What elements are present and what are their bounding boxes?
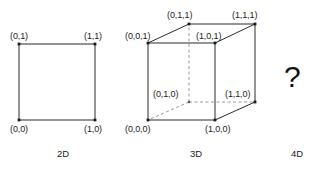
caption-3d: 3D bbox=[176, 148, 216, 159]
cube-vertex-dot-111 bbox=[254, 23, 257, 26]
cube-label-101: (1,0,1) bbox=[196, 31, 221, 41]
cube-vertex-dot-110 bbox=[254, 101, 257, 104]
cube-vertex-dot-001 bbox=[147, 42, 150, 45]
cube-edge-100-to-110 bbox=[215, 102, 255, 120]
caption-4d: 4D bbox=[277, 148, 317, 159]
cube-vertex-dot-010-hidden bbox=[188, 101, 190, 103]
figure-vector-graphics bbox=[0, 0, 318, 169]
cube-vertex-dot-011 bbox=[188, 23, 191, 26]
cube-label-001: (0,0,1) bbox=[125, 31, 150, 41]
cube-vertex-dot-100 bbox=[214, 119, 217, 122]
square-vertex-dot-0-0 bbox=[18, 119, 21, 122]
cube-edge-dashed-010-to-000 bbox=[148, 102, 189, 120]
cube-label-100: (1,0,0) bbox=[205, 124, 230, 134]
square-label-1-0: (1,0) bbox=[84, 124, 102, 134]
cube-vertex-dot-101 bbox=[214, 42, 217, 45]
cube-vertex-dot-000 bbox=[147, 119, 150, 122]
square-2d-shape bbox=[18, 43, 97, 122]
cube-label-111: (1,1,1) bbox=[232, 10, 257, 20]
cube-label-110: (1,1,0) bbox=[225, 89, 250, 99]
cube-edge-001-to-011 bbox=[148, 24, 189, 43]
hypercube-progression-figure: (0,1) (1,1) (0,0) (1,0) (0,0,1) (0,1,1) … bbox=[0, 0, 318, 169]
square-label-0-0: (0,0) bbox=[10, 124, 28, 134]
cube-front-face-outline bbox=[148, 43, 215, 120]
square-vertex-dot-1-1 bbox=[94, 43, 97, 46]
square-label-0-1: (0,1) bbox=[10, 31, 28, 41]
caption-2d: 2D bbox=[43, 148, 83, 159]
square-vertex-dot-0-1 bbox=[18, 43, 21, 46]
question-mark-glyph: ? bbox=[284, 62, 301, 92]
cube-label-011: (0,1,1) bbox=[167, 10, 192, 20]
cube-label-000: (0,0,0) bbox=[125, 124, 150, 134]
square-2d-outline bbox=[19, 44, 95, 120]
square-label-1-1: (1,1) bbox=[84, 31, 102, 41]
cube-label-010: (0,1,0) bbox=[153, 89, 178, 99]
square-vertex-dot-1-0 bbox=[94, 119, 97, 122]
